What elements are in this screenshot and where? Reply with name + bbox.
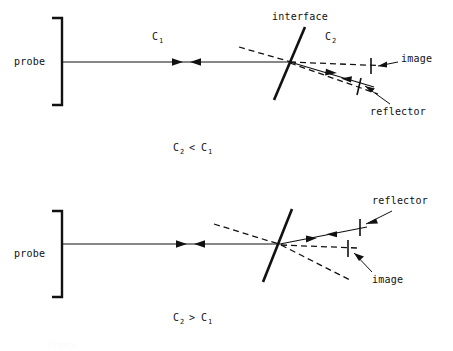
- svg-text:1: 1: [208, 148, 212, 156]
- image-label-top: image: [401, 53, 432, 64]
- svg-text:1: 1: [159, 37, 163, 45]
- svg-text:2: 2: [332, 37, 336, 45]
- svg-text:C: C: [152, 31, 158, 42]
- canvas-background: [0, 0, 453, 351]
- svg-text:2: 2: [180, 318, 184, 326]
- probe-label-bottom: probe: [14, 248, 45, 259]
- svg-text:C: C: [201, 312, 207, 323]
- svg-text:C: C: [173, 312, 179, 323]
- svg-text:C: C: [325, 31, 331, 42]
- svg-text:<: <: [189, 142, 195, 153]
- cut-off-figure-caption: Figure: [48, 341, 77, 350]
- svg-text:1: 1: [208, 318, 212, 326]
- probe-label-top: probe: [14, 56, 45, 67]
- svg-text:>: >: [189, 312, 195, 323]
- svg-text:2: 2: [180, 148, 184, 156]
- diagram-svg: probe C 1 C 2 interface: [0, 0, 453, 351]
- svg-text:C: C: [173, 142, 179, 153]
- figure-root: probe C 1 C 2 interface: [0, 0, 453, 351]
- interface-label-top: interface: [272, 11, 328, 22]
- reflector-label-bottom: reflector: [372, 195, 428, 206]
- svg-text:C: C: [201, 142, 207, 153]
- image-label-bottom: image: [372, 274, 403, 285]
- reflector-label-top: reflector: [370, 106, 426, 117]
